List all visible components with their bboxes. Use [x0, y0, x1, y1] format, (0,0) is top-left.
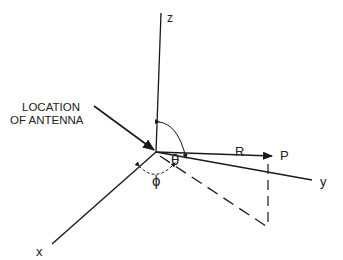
z-axis [156, 13, 161, 152]
antenna-pointer-arrow [94, 106, 154, 150]
antenna-label-line2: OF ANTENNA [10, 114, 84, 126]
r-vector-label: R [235, 144, 244, 159]
phi-label: ϕ [152, 172, 160, 189]
point-p-label: P [280, 148, 289, 163]
spherical-coordinates-diagram: z y x LOCATION OF ANTENNA R P θ ϕ [0, 0, 343, 260]
y-axis-label: y [320, 174, 327, 189]
x-axis [52, 152, 156, 244]
z-axis-label: z [167, 11, 173, 25]
theta-label: θ [171, 151, 179, 168]
antenna-label-line1: LOCATION [22, 101, 80, 113]
x-axis-label: x [36, 244, 43, 259]
